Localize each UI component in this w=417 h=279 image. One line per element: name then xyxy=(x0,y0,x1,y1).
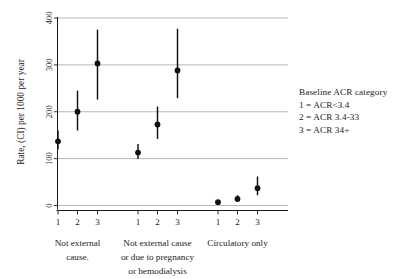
forest-plot-figure: 0100200300400 123123123 Rate, (CI) per 1… xyxy=(0,0,417,279)
x-axis-group: 123123123 xyxy=(56,211,288,228)
group-label-2-line3: or hemodialysis xyxy=(128,266,187,276)
data-point-g1-cat1 xyxy=(55,138,61,144)
legend-title: Baseline ACR category xyxy=(299,86,417,99)
y-tick-label-200: 200 xyxy=(44,105,54,118)
legend-entry-2: 2 = ACR 3.4-33 xyxy=(299,111,417,124)
x-tick-label-g2-3: 3 xyxy=(175,217,180,227)
data-point-g3-cat2 xyxy=(235,196,241,202)
x-tick-label-g1-3: 3 xyxy=(95,217,100,227)
x-tick-label-g2-1: 1 xyxy=(136,217,141,227)
data-point-g2-cat2 xyxy=(155,122,161,128)
group-label-3-line1: Circulatory only xyxy=(207,238,268,248)
y-tick-label-300: 300 xyxy=(44,58,54,71)
group-label-2-line1: Not external cause xyxy=(123,238,191,248)
x-tick-label-g3-2: 2 xyxy=(235,217,240,227)
x-tick-label-g3-3: 3 xyxy=(255,217,260,227)
x-tick-label-g3-1: 1 xyxy=(216,217,221,227)
x-tick-label-g1-1: 1 xyxy=(56,217,61,227)
legend-entry-1: 1 = ACR<3.4 xyxy=(299,99,417,112)
y-tick-label-400: 400 xyxy=(44,12,54,25)
chart-canvas: 0100200300400 123123123 Rate, (CI) per 1… xyxy=(0,0,417,279)
group-label-1-line2: cause. xyxy=(66,252,89,262)
data-point-g2-cat1 xyxy=(135,150,141,156)
y-tick-label-0: 0 xyxy=(44,203,54,207)
y-axis-group: 0100200300400 xyxy=(44,12,57,210)
data-point-g3-cat1 xyxy=(215,199,221,205)
data-point-g1-cat3 xyxy=(95,61,101,67)
y-tick-label-100: 100 xyxy=(44,152,54,165)
x-tick-label-g1-2: 2 xyxy=(75,217,80,227)
data-series-group xyxy=(55,29,260,205)
axis-labels-group: Rate, (CI) per 1000 per yearNot external… xyxy=(16,58,268,276)
legend: Baseline ACR category 1 = ACR<3.4 2 = AC… xyxy=(299,86,417,136)
x-tick-label-g2-2: 2 xyxy=(155,217,160,227)
group-label-2-line2: or due to pregnancy xyxy=(121,252,195,262)
data-point-g2-cat3 xyxy=(175,68,181,74)
data-point-g1-cat2 xyxy=(75,109,81,115)
gridlines-group xyxy=(58,18,289,206)
y-axis-title: Rate, (CI) per 1000 per year xyxy=(16,58,27,165)
group-label-1-line1: Not external xyxy=(55,238,101,248)
legend-entry-3: 3 = ACR 34+ xyxy=(299,124,417,137)
data-point-g3-cat3 xyxy=(255,185,261,191)
